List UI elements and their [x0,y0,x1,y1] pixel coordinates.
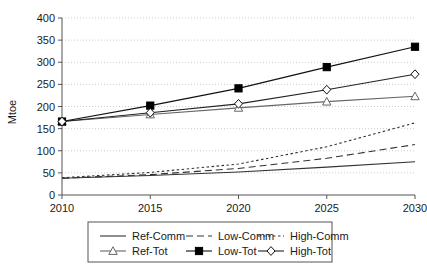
y-tick-label: 50 [43,167,55,179]
legend-label: Low-Tot [218,245,257,257]
x-tick-label: 2015 [138,202,162,214]
legend-label: Low-Comm [218,230,274,242]
x-tick-label: 2010 [50,202,74,214]
marker-square [323,64,330,71]
legend-label: High-Tot [290,245,331,257]
y-axis-title: Mtoe [6,100,18,124]
chart-background [0,0,427,274]
chart-container: 050100150200250300350400 201020152020202… [0,0,427,274]
x-tick-label: 2030 [403,202,427,214]
marker-square [235,85,242,92]
legend-label: High-Comm [290,230,349,242]
marker-square [411,43,418,50]
y-tick-label: 0 [49,189,55,201]
y-tick-label: 200 [37,101,55,113]
line-chart: 050100150200250300350400 201020152020202… [0,0,427,274]
x-tick-label: 2020 [226,202,250,214]
y-tick-label: 100 [37,145,55,157]
x-tick-label: 2025 [315,202,339,214]
y-tick-label: 300 [37,56,55,68]
marker-square [195,247,202,254]
y-tick-label: 400 [37,12,55,24]
y-tick-label: 150 [37,123,55,135]
legend-label: Ref-Tot [132,245,167,257]
y-tick-label: 350 [37,34,55,46]
legend-label: Ref-Comm [132,230,185,242]
y-tick-label: 250 [37,78,55,90]
